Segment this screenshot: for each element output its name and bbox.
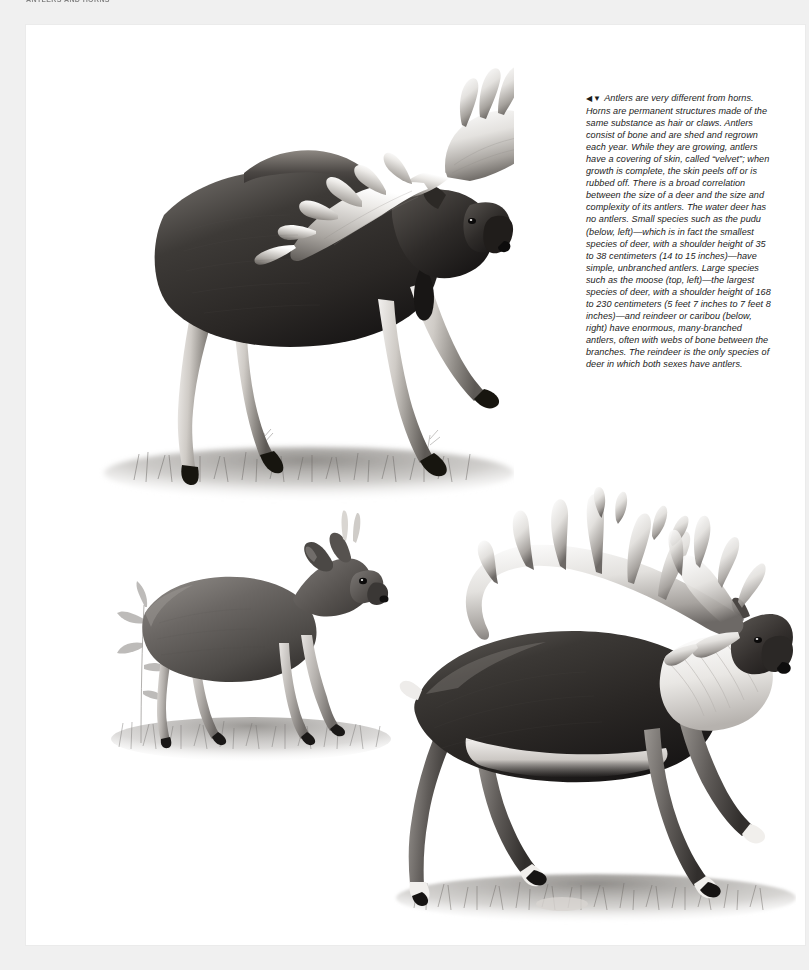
moose-illustration: [94, 55, 514, 525]
pudu-illustration: [101, 495, 401, 775]
page-sheet: ◀▼ Antlers are very different from horns…: [26, 25, 805, 945]
page-header: ANTLERS AND HORNS: [26, 0, 110, 3]
caribou-illustration: [366, 480, 796, 930]
figure-caption: ◀▼ Antlers are very different from horns…: [586, 92, 772, 370]
caption-body: Antlers are very different from horns. H…: [586, 93, 771, 369]
direction-arrows-icon: ◀▼: [586, 94, 602, 103]
